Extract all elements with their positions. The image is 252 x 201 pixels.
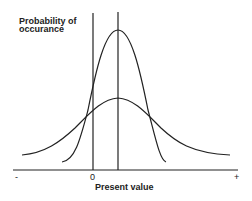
minus-tick-label: - <box>15 172 18 182</box>
y-axis-label-line2: occurance <box>19 25 77 33</box>
y-axis-label: Probability of occurance <box>19 17 77 33</box>
zero-tick-label: 0 <box>90 172 95 182</box>
wide-distribution-curve <box>22 98 230 155</box>
plus-tick-label: + <box>234 172 239 182</box>
x-axis-label: Present value <box>95 182 154 192</box>
narrow-distribution-curve <box>62 30 166 162</box>
